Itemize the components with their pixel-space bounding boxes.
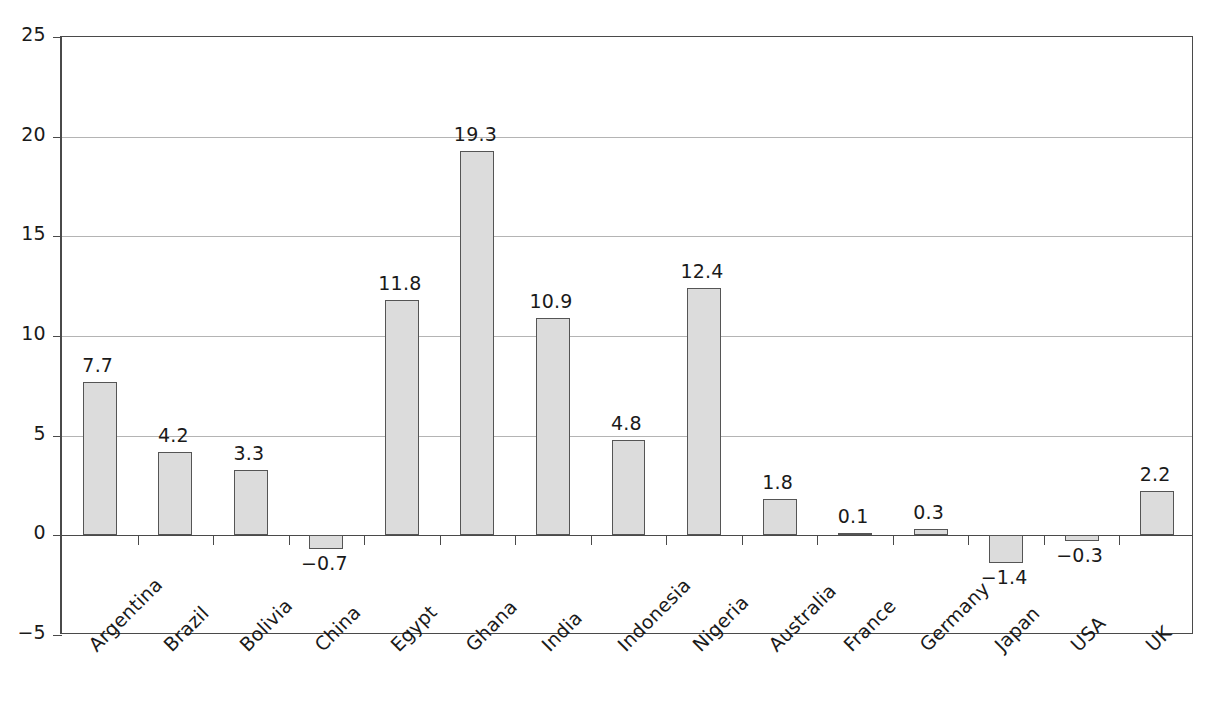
y-axis-tick <box>53 535 62 536</box>
y-axis-tick <box>53 236 62 237</box>
x-axis-tick <box>1119 535 1120 545</box>
bar[interactable] <box>536 318 570 535</box>
plot-area <box>60 36 1193 634</box>
x-axis-tick <box>440 535 441 545</box>
bar-value-label: 4.8 <box>589 412 665 434</box>
y-axis-tick-label: 0 <box>0 521 46 543</box>
bar-value-label: 0.3 <box>891 501 967 523</box>
bar[interactable] <box>1065 535 1099 541</box>
bar-value-label: 0.1 <box>815 505 891 527</box>
bar-value-label: 1.8 <box>740 471 816 493</box>
x-axis-tick <box>893 535 894 545</box>
bar-value-label: −1.4 <box>966 566 1042 588</box>
gridline <box>62 336 1192 337</box>
bar[interactable] <box>158 452 192 536</box>
x-axis-tick <box>666 535 667 545</box>
bar[interactable] <box>838 533 872 535</box>
gridline <box>62 137 1192 138</box>
gridline <box>62 236 1192 237</box>
bar-value-label: −0.7 <box>287 552 363 574</box>
bar[interactable] <box>385 300 419 535</box>
bar-value-label: 11.8 <box>362 272 438 294</box>
y-axis-tick-label: 25 <box>0 23 46 45</box>
bar-value-label: 7.7 <box>60 354 136 376</box>
bar[interactable] <box>763 499 797 535</box>
x-axis-tick <box>817 535 818 545</box>
bar[interactable] <box>460 151 494 536</box>
bar-value-label: 3.3 <box>211 442 287 464</box>
y-axis-tick-label: 15 <box>0 222 46 244</box>
bar[interactable] <box>1140 491 1174 535</box>
bar[interactable] <box>83 382 117 535</box>
x-axis-tick <box>968 535 969 545</box>
x-axis-tick <box>515 535 516 545</box>
x-axis-labels: ArgentinaBrazilBoliviaChinaEgyptGhanaInd… <box>60 634 1193 726</box>
y-axis-tick-label: 10 <box>0 322 46 344</box>
y-axis-tick <box>53 436 62 437</box>
y-axis-tick-label: −5 <box>0 621 46 643</box>
gridline <box>62 436 1192 437</box>
bar-value-label: −0.3 <box>1042 544 1118 566</box>
x-axis-tick <box>364 535 365 545</box>
y-axis-tick <box>53 137 62 138</box>
x-axis-tick <box>138 535 139 545</box>
x-axis-tick <box>213 535 214 545</box>
bar-value-label: 12.4 <box>664 260 740 282</box>
x-axis-tick <box>289 535 290 545</box>
bar-value-label: 10.9 <box>513 290 589 312</box>
bar[interactable] <box>309 535 343 549</box>
y-axis-tick <box>53 37 62 38</box>
bar-chart: ArgentinaBrazilBoliviaChinaEgyptGhanaInd… <box>0 0 1214 726</box>
y-axis-tick <box>53 336 62 337</box>
bar-value-label: 2.2 <box>1117 463 1193 485</box>
bar[interactable] <box>612 440 646 536</box>
bar-value-label: 4.2 <box>136 424 212 446</box>
bar[interactable] <box>687 288 721 535</box>
bar[interactable] <box>234 470 268 536</box>
x-axis-tick <box>742 535 743 545</box>
bar[interactable] <box>989 535 1023 563</box>
bar[interactable] <box>914 529 948 535</box>
y-axis-tick-label: 20 <box>0 123 46 145</box>
bar-value-label: 19.3 <box>438 123 514 145</box>
y-axis-tick-label: 5 <box>0 422 46 444</box>
x-axis-tick <box>591 535 592 545</box>
